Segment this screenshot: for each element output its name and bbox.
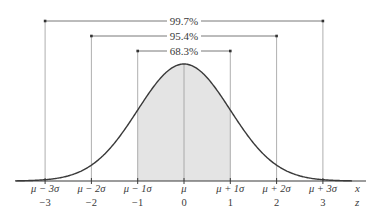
tick-x-label: μ + 2σ	[262, 183, 292, 194]
tick-z-label: −3	[40, 197, 51, 208]
tick-z-label: −2	[86, 197, 97, 208]
x-axis-label: x	[354, 182, 360, 194]
bracket-end-right	[275, 35, 278, 38]
tick-x-label: μ − 1σ	[123, 183, 153, 194]
normal-distribution-diagram: 99.7%95.4%68.3% μ − 3σ−3μ − 2σ−2μ − 1σ−1…	[0, 0, 377, 215]
tick-z-label: 0	[181, 197, 186, 208]
bracket-end-left	[44, 20, 47, 23]
tick-x-label: μ − 2σ	[76, 183, 106, 194]
tick-z-label: 1	[228, 197, 233, 208]
bracket-label: 99.7%	[170, 15, 198, 27]
bracket-label: 95.4%	[170, 30, 198, 42]
tick-z-label: 3	[320, 197, 325, 208]
bracket-end-right	[229, 50, 232, 53]
bracket-997: 99.7%	[44, 15, 324, 27]
percentage-brackets: 99.7%95.4%68.3%	[44, 15, 324, 57]
tick-x-label: μ − 3σ	[30, 183, 60, 194]
tick-z-label: 2	[274, 197, 279, 208]
tick-z-label: −1	[132, 197, 143, 208]
axis-ticks: μ − 3σ−3μ − 2σ−2μ − 1σ−1μ0μ + 1σ1μ + 2σ2…	[30, 178, 338, 208]
bracket-954: 95.4%	[90, 30, 278, 42]
bracket-683: 68.3%	[136, 45, 231, 57]
tick-x-label: μ + 3σ	[308, 183, 338, 194]
bracket-label: 68.3%	[170, 45, 198, 57]
tick-x-label: μ + 1σ	[215, 183, 245, 194]
bracket-end-right	[322, 20, 325, 23]
bracket-end-left	[90, 35, 93, 38]
z-axis-label: z	[354, 196, 360, 208]
tick-x-label: μ	[180, 183, 186, 194]
bracket-end-left	[136, 50, 139, 53]
